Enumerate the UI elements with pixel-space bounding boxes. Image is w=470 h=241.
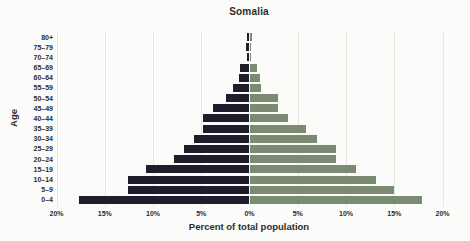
age-label: 40–44: [13, 114, 53, 123]
gridline: [105, 31, 106, 207]
bar-right: [250, 33, 253, 41]
bar-left: [146, 165, 249, 173]
age-label: 70–74: [13, 53, 53, 62]
age-label: 15–19: [13, 165, 53, 174]
bar-left: [203, 114, 249, 122]
age-label: 75–79: [13, 43, 53, 52]
bar-left: [233, 84, 249, 92]
bar-right: [250, 64, 258, 72]
x-tick-label: 5%: [186, 210, 216, 217]
bar-left: [203, 125, 249, 133]
bar-left: [213, 104, 250, 112]
x-tick-label: 10%: [138, 210, 168, 217]
bar-right: [250, 74, 261, 82]
x-tick-label: 0%: [235, 210, 265, 217]
bar-right: [250, 145, 337, 153]
bar-right: [250, 125, 307, 133]
population-pyramid-chart: Somalia Age Percent of total population …: [0, 0, 470, 241]
bar-left: [79, 196, 250, 204]
x-tick-label: 20%: [428, 210, 458, 217]
age-label: 60–64: [13, 73, 53, 82]
x-axis-label: Percent of total population: [149, 221, 349, 232]
age-label: 35–39: [13, 124, 53, 133]
bar-right: [250, 104, 279, 112]
bar-right: [250, 84, 262, 92]
x-tick-label: 15%: [379, 210, 409, 217]
bar-right: [250, 176, 376, 184]
bar-right: [250, 53, 252, 61]
age-label: 80+: [13, 33, 53, 42]
bar-right: [250, 114, 289, 122]
x-tick-label: 10%: [331, 210, 361, 217]
gridline: [443, 31, 444, 207]
bar-left: [184, 145, 250, 153]
age-label: 30–34: [13, 134, 53, 143]
bar-left: [240, 64, 250, 72]
x-tick-label: 20%: [42, 210, 72, 217]
bar-right: [250, 155, 337, 163]
bar-left: [174, 155, 249, 163]
bar-left: [226, 94, 249, 102]
bar-left: [128, 176, 250, 184]
age-label: 5–9: [13, 185, 53, 194]
bar-left: [239, 74, 250, 82]
age-label: 45–49: [13, 104, 53, 113]
x-tick-label: 15%: [90, 210, 120, 217]
bar-left: [128, 186, 250, 194]
age-label: 55–59: [13, 83, 53, 92]
age-label: 65–69: [13, 63, 53, 72]
gridline: [57, 31, 58, 207]
age-label: 20–24: [13, 155, 53, 164]
bar-right: [250, 186, 395, 194]
bar-right: [250, 43, 252, 51]
bar-left: [194, 135, 250, 143]
bar-right: [250, 94, 279, 102]
age-label: 25–29: [13, 144, 53, 153]
gridline: [394, 31, 395, 207]
bar-right: [250, 196, 423, 204]
bar-right: [250, 135, 318, 143]
bar-right: [250, 165, 356, 173]
age-label: 10–14: [13, 175, 53, 184]
age-label: 50–54: [13, 94, 53, 103]
age-label: 0–4: [13, 195, 53, 204]
chart-title: Somalia: [149, 6, 349, 17]
x-tick-label: 5%: [283, 210, 313, 217]
